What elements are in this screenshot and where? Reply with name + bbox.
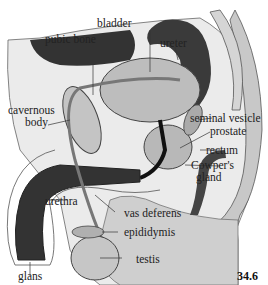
- label-bladder: bladder: [97, 17, 131, 29]
- label-seminal-vesicle: seminal vesicle: [190, 112, 261, 124]
- label-cowpers-line1: Cowper's: [191, 159, 234, 171]
- label-rectum: rectum: [206, 144, 238, 156]
- label-epididymis: epididymis: [124, 226, 175, 238]
- label-glans: glans: [18, 270, 42, 282]
- label-urethra: urethra: [45, 195, 78, 207]
- epididymis: [72, 226, 104, 238]
- label-vas-deferens: vas deferens: [124, 207, 181, 219]
- label-ureter: ureter: [160, 37, 187, 49]
- label-cowpers-line2: gland: [196, 171, 222, 183]
- anatomy-diagram: [0, 0, 268, 285]
- label-cavernous-line2: body: [25, 116, 48, 128]
- label-testis: testis: [136, 253, 160, 265]
- label-cavernous-line1: cavernous: [8, 104, 55, 116]
- figure-number: 34.6: [237, 269, 258, 284]
- label-prostate: prostate: [210, 125, 246, 137]
- label-pubic-bone: pubic bone: [45, 33, 96, 45]
